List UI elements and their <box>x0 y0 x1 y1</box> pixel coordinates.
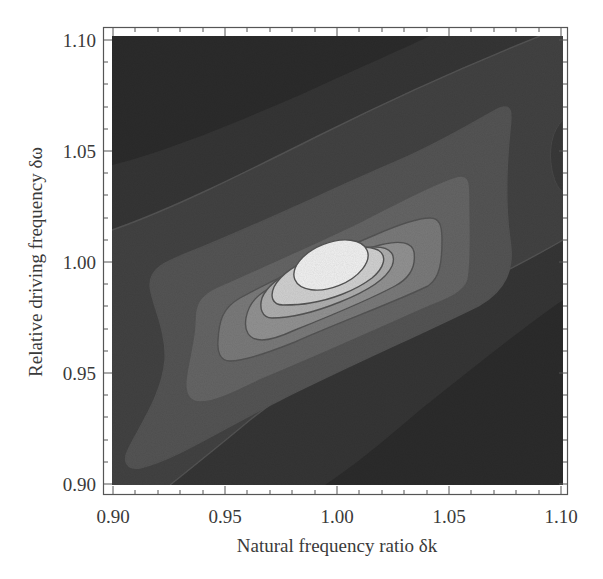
contour-plot-area <box>112 36 563 485</box>
contour-plot-figure: 0.90 0.95 1.00 1.05 1.10 0.90 0.95 1.00 … <box>0 0 603 579</box>
x-axis-title: Natural frequency ratio δk <box>237 535 438 556</box>
y-tick-label: 1.10 <box>63 30 96 51</box>
x-tick-label: 1.00 <box>320 506 353 527</box>
y-tick-labels: 0.90 0.95 1.00 1.05 1.10 <box>63 30 96 495</box>
grain-overlay <box>112 36 563 485</box>
x-tick-label: 0.95 <box>208 506 241 527</box>
x-axis-ticks-bottom <box>113 486 561 494</box>
y-tick-label: 0.90 <box>63 474 96 495</box>
y-tick-label: 0.95 <box>63 363 96 384</box>
x-tick-labels: 0.90 0.95 1.00 1.05 1.10 <box>96 506 577 527</box>
y-tick-label: 1.00 <box>63 252 96 273</box>
x-axis-ticks-top <box>113 28 561 36</box>
x-tick-label: 0.90 <box>96 506 129 527</box>
y-axis-ticks-left <box>104 40 112 484</box>
x-tick-label: 1.10 <box>544 506 577 527</box>
y-axis-title: Relative driving frequency δω <box>25 147 46 377</box>
x-tick-label: 1.05 <box>432 506 465 527</box>
y-tick-label: 1.05 <box>63 141 96 162</box>
